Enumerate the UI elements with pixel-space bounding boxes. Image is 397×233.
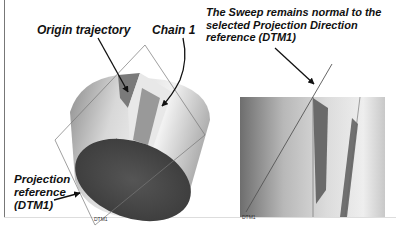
cylinder-isometric [64, 73, 210, 233]
datum-tag-left: DTM1 [94, 216, 108, 222]
side-view-panel [240, 64, 385, 217]
projection-reference-line-2: reference [14, 186, 70, 199]
projection-reference-line-1: Projection [14, 173, 70, 186]
projection-reference-line-3: (DTM1) [14, 199, 70, 212]
projection-reference-label: Projection reference (DTM1) [14, 173, 70, 213]
datum-tag-right: DTM1 [242, 214, 256, 220]
sweep-normal-arrow [275, 48, 314, 84]
chain-1-label: Chain 1 [152, 24, 195, 38]
sweep-normal-note: The Sweep remains normal to the selected… [206, 6, 396, 44]
origin-trajectory-label: Origin trajectory [37, 24, 130, 38]
